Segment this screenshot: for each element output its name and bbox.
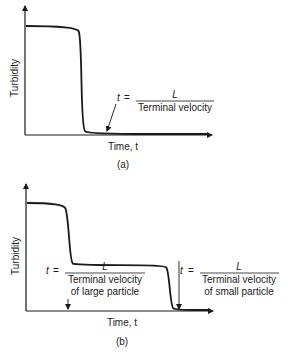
annotation-equals: = [188,265,194,276]
panel-a: Turbidity Time, t (a) t = L Terminal vel… [9,6,214,170]
panel-b-ylabel: Turbidity [10,237,21,275]
annotation-denominator-2: of small particle [204,286,274,297]
annotation-t: t [180,265,184,276]
annotation-t: t [117,92,121,103]
annotation-large-particle: t = L Terminal velocity of large particl… [46,261,145,309]
annotation-equals: = [53,265,59,276]
annotation-denominator-2: of large particle [71,286,140,297]
annotation-arrow [107,104,116,131]
annotation-denominator: Terminal velocity [138,102,212,113]
panel-a-label: (a) [117,159,129,170]
annotation-equals: = [124,92,130,103]
annotation-numerator: L [236,261,242,272]
panel-b: Turbidity Time, t (b) t = L Terminal vel… [10,184,279,347]
annotation-t: t [46,265,50,276]
panel-a-ylabel: Turbidity [9,59,20,97]
panel-a-xlabel: Time, t [108,141,138,152]
annotation-denominator: Terminal velocity [68,274,142,285]
annotation-numerator: L [172,89,178,100]
annotation-small-particle: t = L Terminal velocity of small particl… [179,261,279,309]
figure: Turbidity Time, t (a) t = L Terminal vel… [0,0,288,357]
panel-a-annotation: t = L Terminal velocity [107,89,214,131]
annotation-denominator: Terminal velocity [202,274,276,285]
panel-b-xlabel: Time, t [107,317,137,328]
panel-a-turbidity-curve [26,26,208,134]
annotation-numerator: L [102,261,108,272]
panel-b-label: (b) [116,336,128,347]
